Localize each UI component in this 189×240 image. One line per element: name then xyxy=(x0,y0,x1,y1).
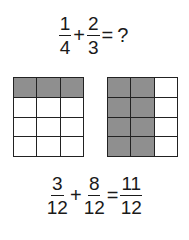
plus-sign: + xyxy=(70,184,82,207)
grid-cell xyxy=(155,98,177,117)
grid-cell xyxy=(14,137,36,156)
equals-sign: = xyxy=(107,184,119,207)
denominator: 3 xyxy=(88,36,99,57)
grid-cell xyxy=(61,137,83,156)
grid-cell xyxy=(155,137,177,156)
numerator: 8 xyxy=(88,174,101,196)
plus-sign: + xyxy=(73,24,85,47)
equals-sign: = xyxy=(102,24,114,47)
grid-cell xyxy=(108,137,130,156)
grid-cell xyxy=(61,78,83,97)
grid-cell xyxy=(37,78,59,97)
grid-cell xyxy=(155,118,177,137)
fraction-eight-twelfths: 8 12 xyxy=(84,174,105,217)
grid-quarter-model xyxy=(13,77,84,157)
fraction-one-quarter: 1 4 xyxy=(59,14,72,57)
grid-cell xyxy=(131,78,153,97)
grid-cell xyxy=(37,137,59,156)
numerator: 2 xyxy=(87,14,100,36)
grid-cell xyxy=(131,118,153,137)
grid-cell xyxy=(131,98,153,117)
denominator: 12 xyxy=(121,196,142,217)
grid-cell xyxy=(37,118,59,137)
denominator: 12 xyxy=(47,196,68,217)
denominator: 12 xyxy=(84,196,105,217)
grid-cell xyxy=(108,98,130,117)
grid-cell xyxy=(131,137,153,156)
grid-two-thirds-model xyxy=(107,77,178,157)
grid-cell xyxy=(14,78,36,97)
numerator: 11 xyxy=(120,174,142,196)
problem-equation: 1 4 + 2 3 = ? xyxy=(0,14,189,57)
grid-cell xyxy=(155,78,177,97)
numerator: 3 xyxy=(51,174,64,196)
fraction-three-twelfths: 3 12 xyxy=(47,174,68,217)
grid-cell xyxy=(14,98,36,117)
numerator: 1 xyxy=(59,14,72,36)
unknown-result: ? xyxy=(117,24,128,47)
grid-cell xyxy=(108,118,130,137)
grid-cell xyxy=(14,118,36,137)
denominator: 4 xyxy=(60,36,71,57)
grid-cell xyxy=(61,98,83,117)
fraction-eleven-twelfths: 11 12 xyxy=(120,174,142,217)
solution-equation: 3 12 + 8 12 = 11 12 xyxy=(0,174,189,217)
grid-cell xyxy=(37,98,59,117)
fraction-two-thirds: 2 3 xyxy=(87,14,100,57)
grid-cell xyxy=(108,78,130,97)
grid-cell xyxy=(61,118,83,137)
